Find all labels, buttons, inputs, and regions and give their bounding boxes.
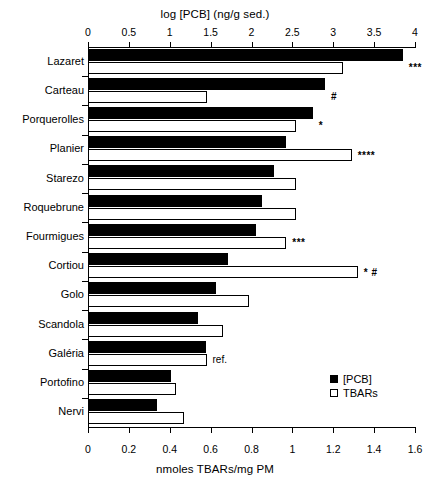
legend-label: [PCB] (343, 373, 372, 386)
bar-pcb (88, 49, 403, 61)
bottom-axis-tick (374, 427, 375, 433)
bar-tbars (88, 325, 223, 337)
legend-item: TBARs (330, 386, 378, 400)
legend-swatch-filled-icon (330, 375, 338, 383)
top-axis-tick-label: 1 (167, 26, 173, 38)
top-axis-tick-label: 3.5 (367, 26, 382, 38)
category-label: Planier (0, 142, 84, 154)
significance-annotation: ref. (213, 354, 227, 365)
category-label: Cortiou (0, 259, 84, 271)
top-axis-tick (292, 42, 293, 48)
significance-annotation: **** (358, 150, 376, 161)
bottom-axis-tick-label: 1 (289, 443, 295, 455)
category-label: Starezo (0, 172, 84, 184)
chart-legend: [PCB]TBARs (330, 372, 378, 400)
bar-tbars (88, 354, 207, 366)
top-axis-tick-label: 0.5 (122, 26, 137, 38)
bar-tbars (88, 295, 249, 307)
category-label: Galéria (0, 347, 84, 359)
bar-tbars (88, 237, 286, 249)
bottom-axis-tick-label: 1.6 (408, 443, 423, 455)
bottom-axis-tick-label: 1.2 (326, 443, 341, 455)
bar-tbars (88, 208, 296, 220)
bottom-axis-tick-label: 1.4 (367, 443, 382, 455)
bottom-axis-tick (211, 427, 212, 433)
category-label: Porquerolles (0, 113, 84, 125)
bottom-axis-tick (88, 427, 89, 433)
top-axis-tick-label: 2 (249, 26, 255, 38)
category-label: Roquebrune (0, 201, 84, 213)
top-axis-tick (211, 42, 212, 48)
bottom-axis-tick (292, 427, 293, 433)
top-axis-tick (170, 42, 171, 48)
bar-pcb (88, 370, 171, 382)
bar-tbars (88, 120, 296, 132)
top-axis-tick (88, 42, 89, 48)
top-axis-tick-label: 4 (412, 26, 418, 38)
category-label: Fourmigues (0, 230, 84, 242)
bar-pcb (88, 195, 262, 207)
bar-tbars (88, 178, 296, 190)
bar-pcb (88, 312, 198, 324)
bar-tbars (88, 149, 352, 161)
bar-tbars (88, 62, 343, 74)
top-axis-tick (129, 42, 130, 48)
bottom-axis-tick-labels: 00.20.40.60.811.21.41.6 (0, 443, 430, 457)
top-axis-tick-label: 1.5 (203, 26, 218, 38)
category-label: Golo (0, 288, 84, 300)
bottom-axis-tick-label: 0.2 (122, 443, 137, 455)
top-axis-tick (252, 42, 253, 48)
bar-tbars (88, 266, 358, 278)
top-axis-tick (374, 42, 375, 48)
category-label: Carteau (0, 84, 84, 96)
bottom-axis-tick (252, 427, 253, 433)
bottom-axis-tick (170, 427, 171, 433)
top-axis-tick (333, 42, 334, 48)
top-axis-tick-label: 2.5 (285, 26, 300, 38)
legend-swatch-hollow-icon (330, 389, 338, 397)
bar-pcb (88, 165, 274, 177)
significance-annotation: *** (409, 62, 422, 73)
bottom-axis-tick (129, 427, 130, 433)
bar-pcb (88, 107, 313, 119)
bottom-axis-tick-label: 0.6 (203, 443, 218, 455)
bar-pcb (88, 224, 256, 236)
bar-pcb (88, 282, 216, 294)
significance-annotation: # (331, 91, 337, 102)
category-label: Scandola (0, 318, 84, 330)
bar-pcb (88, 136, 286, 148)
significance-annotation: * # (364, 267, 378, 278)
legend-label: TBARs (343, 387, 378, 400)
bar-pcb (88, 341, 206, 353)
chart-figure: log [PCB] (ng/g sed.) 00.511.522.533.54 … (0, 0, 430, 487)
bottom-axis-tick-label: 0 (85, 443, 91, 455)
bar-pcb (88, 253, 228, 265)
category-label: Portofino (0, 376, 84, 388)
top-axis-tick-label: 0 (85, 26, 91, 38)
top-axis-tick-label: 3 (330, 26, 336, 38)
bar-tbars (88, 91, 207, 103)
bar-pcb (88, 78, 325, 90)
bar-tbars (88, 412, 184, 424)
significance-annotation: *** (292, 237, 305, 248)
category-labels: LazaretCarteauPorquerollesPlanierStarezo… (0, 0, 84, 487)
bottom-axis-tick (415, 427, 416, 433)
bottom-axis-tick (333, 427, 334, 433)
bar-tbars (88, 383, 176, 395)
category-label: Lazaret (0, 55, 84, 67)
bar-pcb (88, 399, 157, 411)
bottom-axis-tick-label: 0.8 (244, 443, 259, 455)
bottom-axis-title: nmoles TBARs/mg PM (0, 463, 430, 475)
significance-annotation: * (319, 120, 323, 131)
legend-item: [PCB] (330, 372, 378, 386)
category-label: Nervi (0, 405, 84, 417)
top-axis-tick (415, 42, 416, 48)
bottom-axis-tick-label: 0.4 (162, 443, 177, 455)
